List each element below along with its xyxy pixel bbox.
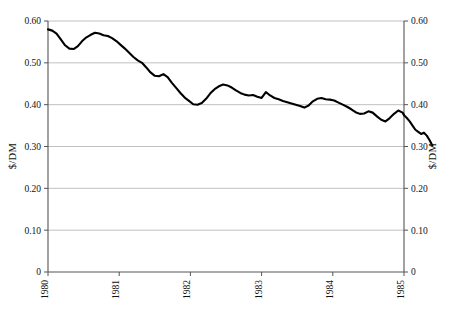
- y-tick-label-right: 0.10: [411, 226, 428, 236]
- line-chart: 00.100.200.300.400.500.60 00.100.200.300…: [0, 0, 449, 312]
- y-axis-left-title: $/DM: [7, 142, 18, 169]
- y-tick-label-left: 0.30: [24, 142, 41, 152]
- x-tick-label: 1980: [40, 280, 50, 299]
- y-tick-label-right: 0.40: [411, 100, 428, 110]
- y-tick-label-left: 0.60: [24, 16, 41, 26]
- x-tick-label: 1985: [396, 280, 406, 299]
- y-tick-label-right: 0.50: [411, 58, 428, 68]
- y-tick-label-left: 0.10: [24, 226, 41, 236]
- y-tick-label-right: 0.30: [411, 142, 428, 152]
- y-tick-label-left: 0: [36, 267, 41, 277]
- x-tick-label: 1984: [325, 280, 335, 299]
- y-tick-label-left: 0.50: [24, 58, 41, 68]
- chart-svg: 00.100.200.300.400.500.60 00.100.200.300…: [0, 0, 449, 312]
- x-tick-label: 1982: [182, 280, 192, 299]
- y-axis-right-title: $/DM: [427, 142, 438, 169]
- x-tick-label: 1981: [111, 280, 121, 299]
- y-tick-label-right: 0: [411, 267, 416, 277]
- y-tick-label-right: 0.60: [411, 16, 428, 26]
- y-tick-label-left: 0.20: [24, 184, 41, 194]
- y-tick-label-right: 0.20: [411, 184, 428, 194]
- x-tick-label: 1983: [254, 280, 264, 299]
- y-tick-label-left: 0.40: [24, 100, 41, 110]
